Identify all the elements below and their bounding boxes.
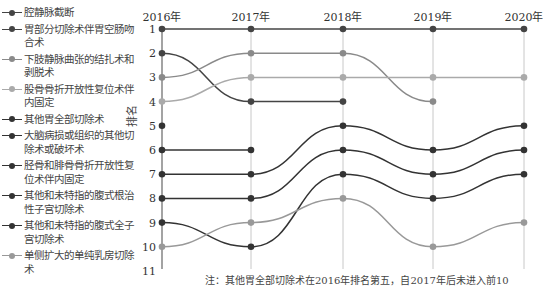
y-tick-label: 9	[149, 217, 156, 230]
x-tick-label: 2018年	[324, 10, 363, 24]
x-tick-label: 2017年	[232, 10, 271, 24]
data-point	[159, 219, 166, 226]
data-point	[159, 74, 166, 81]
data-point	[340, 74, 347, 81]
data-point	[248, 74, 255, 81]
legend-item: 其他胃全部切除术	[0, 113, 140, 127]
legend-label: 其他和未特指的腹式全子宫切除术	[24, 219, 140, 246]
legend-line-marker-icon	[0, 83, 24, 96]
legend-line-marker-icon	[0, 219, 24, 232]
data-point	[248, 195, 255, 202]
legend-item: 大脑病损或组织的其他切除术或破坏术	[0, 129, 140, 156]
legend-line-marker-icon	[0, 159, 24, 172]
legend-label: 股骨骨折开放性复位术伴内固定	[24, 83, 140, 110]
legend-line-marker-icon	[0, 249, 24, 262]
y-tick-label: 6	[149, 144, 156, 157]
legend-label: 腔静脉截断	[24, 6, 74, 20]
chart-legend: 腔静脉截断胃部分切除术伴胃空肠吻合术下肢静脉曲张的结扎术和剥脱术股骨骨折开放性复…	[0, 6, 140, 279]
data-point	[248, 26, 255, 33]
data-point	[248, 147, 255, 154]
legend-line-marker-icon	[0, 129, 24, 142]
legend-label: 大脑病损或组织的其他切除术或破坏术	[24, 129, 140, 156]
legend-line-marker-icon	[0, 189, 24, 202]
data-point	[248, 244, 255, 251]
series-0	[159, 26, 528, 33]
data-point	[521, 26, 528, 33]
data-point	[430, 244, 437, 251]
legend-line-marker-icon	[0, 23, 24, 36]
legend-item: 腔静脉截断	[0, 6, 140, 20]
data-point	[521, 147, 528, 154]
legend-item: 股骨骨折开放性复位术伴内固定	[0, 83, 140, 110]
legend-item: 胃部分切除术伴胃空肠吻合术	[0, 23, 140, 50]
legend-line-marker-icon	[0, 113, 24, 126]
legend-item: 单侧扩大的单纯乳房切除术	[0, 249, 140, 276]
chart-note: 注：其他胃全部切除术在2016年排名第五，自2017年后未进入前10	[205, 272, 509, 287]
x-tick-label: 2016年	[143, 10, 182, 24]
y-tick-label: 2	[149, 47, 156, 60]
data-point	[430, 147, 437, 154]
data-point	[430, 98, 437, 105]
data-point	[521, 123, 528, 130]
legend-line-marker-icon	[0, 53, 24, 66]
data-point	[521, 219, 528, 226]
legend-item: 下肢静脉曲张的结扎术和剥脱术	[0, 53, 140, 80]
data-point	[340, 195, 347, 202]
y-tick-label: 4	[149, 96, 156, 109]
legend-label: 胃部分切除术伴胃空肠吻合术	[24, 23, 140, 50]
data-point	[521, 171, 528, 178]
legend-line-marker-icon	[0, 6, 24, 19]
data-point	[248, 171, 255, 178]
series-4	[159, 123, 166, 130]
data-point	[430, 171, 437, 178]
legend-label: 胫骨和腓骨骨折开放性复位术伴内固定	[24, 159, 140, 186]
data-point	[159, 147, 166, 154]
data-point	[159, 171, 166, 178]
legend-label: 其他胃全部切除术	[24, 113, 104, 127]
data-point	[340, 50, 347, 57]
y-tick-label: 3	[149, 71, 156, 84]
legend-item: 胫骨和腓骨骨折开放性复位术伴内固定	[0, 159, 140, 186]
legend-label: 下肢静脉曲张的结扎术和剥脱术	[24, 53, 140, 80]
legend-item: 其他和未特指的腹式全子宫切除术	[0, 219, 140, 246]
data-point	[248, 98, 255, 105]
x-tick-label: 2019年	[414, 10, 453, 24]
data-point	[159, 195, 166, 202]
legend-label: 其他和未特指的腹式根治性子宫切除术	[24, 189, 140, 216]
legend-item: 其他和未特指的腹式根治性子宫切除术	[0, 189, 140, 216]
data-point	[159, 244, 166, 251]
data-point	[248, 219, 255, 226]
data-point	[340, 147, 347, 154]
y-tick-label: 8	[149, 192, 156, 205]
data-point	[340, 98, 347, 105]
data-point	[159, 26, 166, 33]
data-point	[159, 50, 166, 57]
data-point	[159, 98, 166, 105]
data-point	[340, 123, 347, 130]
y-tick-label: 1	[149, 23, 156, 36]
data-point	[521, 74, 528, 81]
data-point	[430, 26, 437, 33]
series-5	[159, 147, 255, 154]
data-point	[159, 123, 166, 130]
y-tick-label: 7	[149, 168, 156, 181]
data-point	[430, 74, 437, 81]
data-point	[340, 26, 347, 33]
y-tick-label: 5	[149, 120, 156, 133]
y-tick-label: 11	[142, 265, 156, 278]
data-point	[248, 50, 255, 57]
y-tick-label: 10	[142, 241, 156, 254]
x-tick-label: 2020年	[505, 10, 543, 24]
legend-label: 单侧扩大的单纯乳房切除术	[24, 249, 140, 276]
data-point	[430, 195, 437, 202]
data-point	[340, 171, 347, 178]
